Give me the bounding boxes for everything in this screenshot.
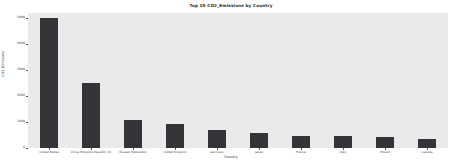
- bar-slot: [28, 13, 70, 148]
- chart-title: Top 10 CO2_Emissions by Country: [0, 3, 462, 9]
- bar-slot: [406, 13, 448, 148]
- bar-slot: [154, 13, 196, 148]
- x-tick-label: Japan: [255, 151, 263, 154]
- y-tick-label: 5000: [17, 15, 25, 19]
- x-tick-label: Russian Federation: [119, 151, 146, 154]
- x-tick-label: France: [296, 151, 306, 154]
- bar-series: [28, 13, 448, 148]
- y-tick-label: 3000: [17, 67, 25, 71]
- bar: [376, 137, 395, 148]
- bar: [166, 124, 185, 148]
- bar: [82, 83, 101, 148]
- bar-slot: [322, 13, 364, 148]
- y-tick-label: 1000: [17, 119, 25, 123]
- bar-slot: [280, 13, 322, 148]
- bar: [334, 136, 353, 148]
- bar: [40, 18, 59, 148]
- bar: [418, 139, 437, 148]
- x-tick-label: United States: [39, 151, 59, 154]
- bar: [250, 133, 269, 148]
- y-axis-ticks: 010002000300040005000: [0, 13, 28, 148]
- bar-slot: [364, 13, 406, 148]
- x-tick-label: China (People's Republic of): [71, 151, 111, 154]
- x-tick-label: Germany: [210, 151, 223, 154]
- x-tick-label: Canada: [422, 151, 433, 154]
- bar-slot: [70, 13, 112, 148]
- bar-slot: [112, 13, 154, 148]
- bar: [124, 120, 143, 148]
- y-tick-label: 2000: [17, 93, 25, 97]
- bar: [208, 130, 227, 148]
- x-tick-label: Poland: [380, 151, 390, 154]
- bar-slot: [238, 13, 280, 148]
- y-tick-label: 4000: [17, 41, 25, 45]
- bar-slot: [196, 13, 238, 148]
- bar: [292, 136, 311, 148]
- y-tick-label: 0: [23, 145, 25, 149]
- x-tick-label: United Kingdom: [163, 151, 186, 154]
- plot-area: [28, 13, 448, 148]
- x-tick-label: Italy: [340, 151, 346, 154]
- chart-figure: Top 10 CO2_Emissions by Country CO2_Emis…: [0, 0, 462, 167]
- x-axis-label: Country: [0, 155, 462, 159]
